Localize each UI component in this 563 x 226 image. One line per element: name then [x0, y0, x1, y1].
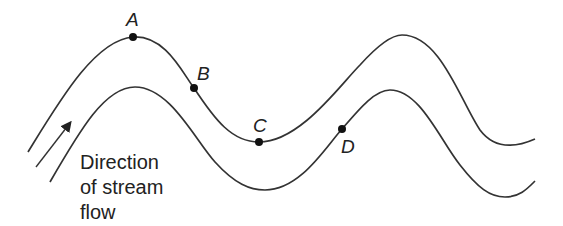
point-d-label: D	[341, 136, 355, 157]
point-a-label: A	[125, 9, 139, 30]
point-a-dot	[129, 33, 137, 41]
point-d-dot	[338, 125, 346, 133]
caption-line-3: flow	[80, 201, 116, 223]
stream-diagram: A B C D Direction of stream flow	[0, 0, 563, 226]
point-c-label: C	[253, 115, 267, 136]
caption-line-2: of stream	[80, 176, 163, 198]
upper-stream-bank	[28, 35, 535, 152]
point-b-dot	[190, 84, 198, 92]
caption-line-1: Direction	[80, 151, 159, 173]
point-b-label: B	[197, 63, 210, 84]
point-c-dot	[255, 138, 263, 146]
